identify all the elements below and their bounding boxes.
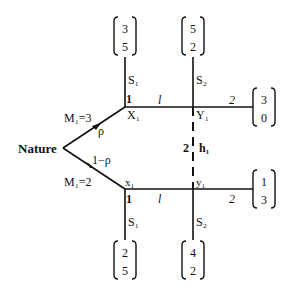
payoff-vector-upper-end: 3 0 [254,88,274,128]
upper-edge1-label: l [158,94,161,106]
upper-edge2-label: 2 [229,94,235,106]
upper-node1-player: 1 [126,93,132,105]
lower-s2-label: S₂ [196,216,207,228]
upper-s1-label: S₁ [128,74,139,86]
upper-node1-label: X₁ [127,109,140,121]
upper-prob-label: ρ [98,125,104,137]
payoff-vector-upper-s2: 5 2 [183,17,203,57]
lower-prob-label: 1−ρ [92,154,111,166]
lower-s1-label: S₁ [128,216,139,228]
upper-move-label: M₁=3 [64,112,92,124]
lower-node2-label: y₁ [196,176,205,188]
upper-node2-label: Y₁ [196,109,209,121]
payoff-vector-upper-s1: 3 5 [115,17,135,57]
payoff-vector-lower-s2: 4 2 [183,241,203,281]
lower-node1-label: x₁ [125,176,134,188]
upper-s2-label: S₂ [196,74,207,86]
payoff-vector-lower-end: 1 3 [254,170,274,210]
nature-label: Nature [18,143,57,155]
lower-move-label: M₁=2 [64,176,92,188]
lower-edge2-label: 2 [229,193,235,205]
lower-edge1-label: l [158,193,161,205]
info-set-player: 2 [183,142,189,154]
lower-node1-player: 1 [126,193,132,205]
payoff-vector-lower-s1: 2 5 [115,241,135,281]
info-set-label: h₁ [199,142,209,154]
